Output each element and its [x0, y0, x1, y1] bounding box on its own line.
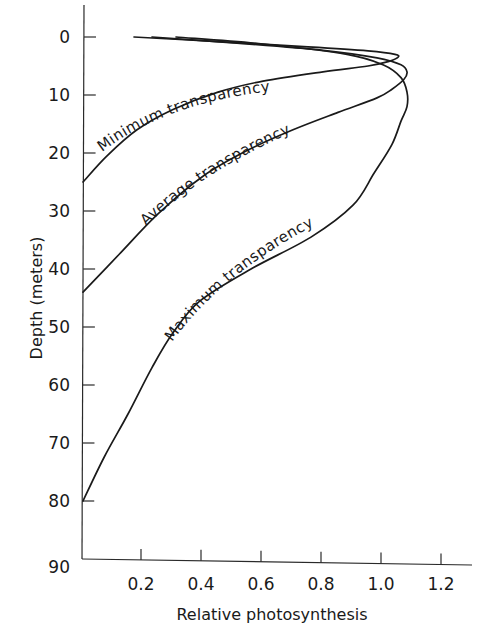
y-tick-label: 20: [48, 143, 70, 163]
y-axis-line: [82, 5, 84, 559]
x-tick-label: 0.4: [187, 574, 214, 594]
y-tick-label: 30: [48, 201, 70, 221]
x-ticks: 0.20.40.60.81.01.2: [127, 549, 454, 594]
y-tick-label: 80: [48, 491, 70, 511]
y-axis: 0102030405060708090 Depth (meters): [27, 5, 96, 577]
x-tick-label: 0.2: [127, 574, 154, 594]
curve-label-maximum: Maximum transparency: [161, 213, 316, 344]
curve-label-average: Average transparency: [136, 120, 292, 229]
depth-photosynthesis-chart: 0102030405060708090 Depth (meters) 0.20.…: [0, 0, 486, 640]
x-axis-label: Relative photosynthesis: [176, 605, 367, 624]
y-tick-label: 90: [48, 557, 70, 577]
y-tick-label: 40: [48, 259, 70, 279]
y-tick-label: 70: [48, 433, 70, 453]
y-ticks: 0102030405060708090: [48, 27, 96, 577]
y-tick-label: 60: [48, 375, 70, 395]
y-tick-label: 0: [59, 27, 70, 47]
x-tick-label: 0.6: [247, 574, 274, 594]
y-tick-label: 10: [48, 85, 70, 105]
y-tick-label: 50: [48, 317, 70, 337]
x-tick-label: 1.2: [427, 574, 454, 594]
y-axis-label: Depth (meters): [27, 237, 46, 360]
x-tick-label: 1.0: [367, 574, 394, 594]
x-tick-label: 0.8: [307, 574, 334, 594]
x-axis: 0.20.40.60.81.01.2 Relative photosynthes…: [82, 549, 472, 624]
